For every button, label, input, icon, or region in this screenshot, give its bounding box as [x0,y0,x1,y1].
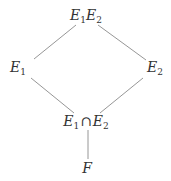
node-top-sub2: 2 [96,15,102,25]
edges-layer [0,0,171,181]
node-right-sub: 2 [157,67,163,77]
node-middle-base1: E [63,113,73,129]
node-top-e1e2: E1E2 [70,8,102,25]
node-bottom-f: F [82,161,92,175]
edge-top-right [98,25,146,60]
edge-right-middle [100,78,143,113]
node-left-e1: E1 [10,60,26,77]
edge-left-middle [31,78,74,113]
node-right-e2: E2 [147,60,163,77]
node-middle-sub2: 2 [103,121,109,131]
node-left-sub: 1 [20,67,26,77]
node-bottom-base: F [82,160,92,176]
intersection-operator: ∩ [80,113,92,129]
edge-top-left [34,25,76,59]
node-top-base1: E [70,7,80,23]
node-top-base2: E [86,7,96,23]
node-middle-base2: E [93,113,103,129]
node-middle-intersection: E1∩E2 [63,114,109,131]
node-middle-sub1: 1 [73,121,79,131]
node-left-base: E [10,59,20,75]
node-right-base: E [147,59,157,75]
